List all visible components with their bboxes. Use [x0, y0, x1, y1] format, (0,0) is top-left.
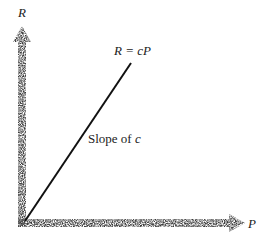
y-axis-line	[18, 34, 26, 226]
x-axis-arrow-icon	[229, 214, 245, 232]
x-axis-line	[18, 219, 238, 227]
equation-label: R = cP	[113, 43, 151, 58]
x-axis-label: P	[247, 216, 256, 231]
slope-variable: c	[135, 131, 141, 146]
slope-annotation: Slope of c	[88, 131, 141, 146]
x-axis	[18, 214, 245, 232]
y-axis-label: R	[17, 5, 26, 20]
y-axis-arrow-icon	[13, 26, 31, 42]
slope-prefix: Slope of	[88, 131, 135, 146]
y-axis	[13, 26, 31, 226]
diagram-canvas: R P R = cP Slope of c	[0, 0, 268, 246]
